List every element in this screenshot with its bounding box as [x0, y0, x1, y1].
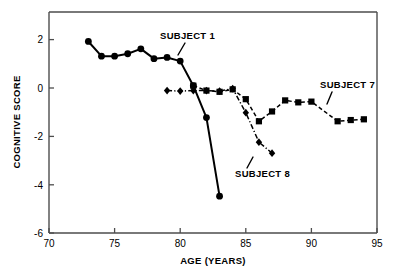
x-axis-title: AGE (YEARS): [180, 255, 246, 266]
y-tick-label-minus4: -4: [34, 180, 43, 191]
data-point-circle: [111, 53, 118, 60]
x-tick-label-95: 95: [371, 238, 383, 249]
cognitive-score-vs-age-chart: 70 75 80 85 90 95 2 0 -2 -4 -6 AGE (YEAR…: [0, 0, 402, 276]
data-point-circle: [216, 193, 223, 200]
data-point-square: [348, 117, 354, 123]
y-axis-title: COGNITIVE SCORE: [11, 75, 22, 168]
data-point-circle: [164, 54, 171, 61]
data-point-square: [256, 118, 262, 124]
y-tick-label-minus2: -2: [34, 131, 43, 142]
y-tick-label-2: 2: [37, 34, 43, 45]
x-tick-label-90: 90: [306, 238, 318, 249]
data-point-circle: [124, 50, 131, 57]
y-tick-label-minus6: -6: [34, 228, 43, 239]
data-point-square: [295, 99, 301, 105]
series-label-subject-1: SUBJECT 1: [160, 30, 215, 41]
data-point-square: [243, 96, 249, 102]
x-tick-label-80: 80: [175, 238, 187, 249]
series-label-subject-7: SUBJECT 7: [320, 79, 375, 90]
data-point-circle: [151, 55, 158, 62]
y-tick-label-0: 0: [37, 83, 43, 94]
data-point-circle: [98, 53, 105, 60]
chart-background: [0, 0, 402, 276]
data-point-square: [269, 108, 275, 114]
data-point-circle: [203, 114, 210, 121]
data-point-circle: [85, 38, 92, 45]
data-point-circle: [137, 45, 144, 52]
data-point-square: [308, 99, 314, 105]
x-tick-label-85: 85: [240, 238, 252, 249]
figure-container: 70 75 80 85 90 95 2 0 -2 -4 -6 AGE (YEAR…: [0, 0, 402, 276]
data-point-square: [361, 116, 367, 122]
data-point-square: [282, 97, 288, 103]
data-point-circle: [177, 58, 184, 65]
x-tick-label-75: 75: [109, 238, 121, 249]
x-tick-label-70: 70: [43, 238, 55, 249]
data-point-square: [335, 118, 341, 124]
series-label-subject-8: SUBJECT 8: [235, 168, 290, 179]
